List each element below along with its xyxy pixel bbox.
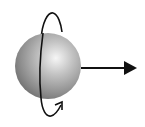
sphere bbox=[15, 33, 81, 99]
motion-arrowhead-icon bbox=[124, 61, 137, 75]
spinning-sphere-diagram bbox=[0, 0, 145, 127]
